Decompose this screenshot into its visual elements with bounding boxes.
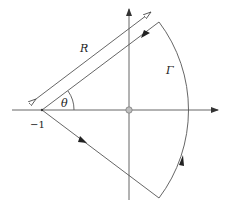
minus-one-label: −1 bbox=[30, 119, 45, 130]
contour-label: Γ bbox=[165, 64, 174, 77]
radius-label: R bbox=[79, 42, 88, 55]
angle-arc bbox=[68, 91, 74, 110]
contour-diagram: R Γ θ −1 bbox=[0, 0, 230, 207]
lower-ray-direction-arrow-icon bbox=[78, 136, 87, 143]
radius-dimension-line bbox=[36, 12, 151, 99]
origin-marker bbox=[126, 107, 132, 113]
lower-ray bbox=[42, 110, 159, 198]
minus-one-point bbox=[41, 109, 43, 111]
angle-label: θ bbox=[61, 97, 68, 110]
upper-ray bbox=[42, 22, 159, 110]
